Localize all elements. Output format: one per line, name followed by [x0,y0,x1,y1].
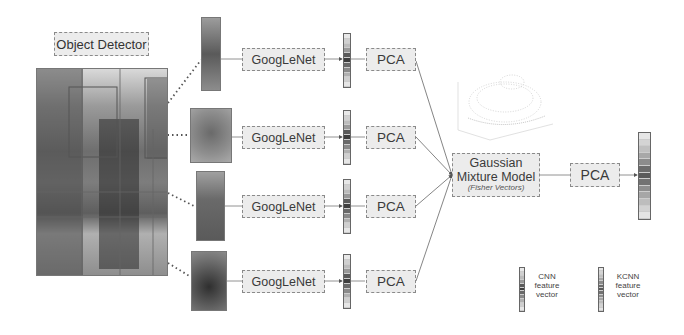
pca-box-1: PCA [366,48,416,71]
dotted-link-4 [168,263,191,277]
crop-image-2 [190,108,232,163]
vector-cell [344,303,350,308]
legend-kcnn-label: KCNN feature vector [610,272,646,300]
vector-cell [639,166,650,173]
legend-kcnn-line2: feature [610,281,646,290]
pca-label: PCA [377,199,405,214]
dotted-link-1 [168,60,201,103]
vector-cell [639,179,650,186]
vector-cell [639,140,650,147]
vector-cell [639,153,650,160]
pca-label: PCA [377,130,405,145]
googlenet-box-4: GoogLeNet [242,270,325,293]
vector-cell [344,228,350,233]
vector-cell [639,206,650,213]
vector-cell [639,159,650,166]
crop-image-1 [201,17,221,91]
googlenet-box-3: GoogLeNet [242,195,325,218]
legend-kcnn-line1: KCNN [610,272,646,281]
object-detector-label: Object Detector [54,32,149,56]
vector-cell [599,308,603,311]
vector-cell [639,186,650,193]
pca-box-3: PCA [366,195,416,218]
vector-cell [344,159,350,164]
crop-image-4 [191,251,227,311]
cnn-feature-vector-4 [343,254,351,309]
vector-cell [639,199,650,206]
legend-kcnn-line3: vector [610,290,646,299]
object-detector-text: Object Detector [56,37,146,52]
link-pca-gmm-1 [416,61,452,175]
pca-box-2: PCA [366,126,416,149]
detection-boxes [37,69,168,276]
gmm-title-line1: Gaussian [470,157,523,171]
googlenet-label: GoogLeNet [252,200,316,214]
googlenet-label: GoogLeNet [252,53,316,67]
vector-cell [520,307,524,311]
cnn-feature-vector-3 [343,179,351,234]
vector-cell [344,82,350,87]
googlenet-box-1: GoogLeNet [242,48,325,71]
cnn-feature-vector-2 [343,110,351,165]
googlenet-label: GoogLeNet [252,131,316,145]
gmm-title-line2: Mixture Model [457,171,536,185]
pca-label: PCA [377,52,405,67]
googlenet-label: GoogLeNet [252,275,316,289]
legend-cnn-line1: CNN [530,272,564,281]
vector-cell [639,212,650,219]
vector-cell [639,173,650,180]
legend-cnn-line3: vector [530,290,564,299]
final-pca-box: PCA [570,163,620,187]
scatter-plot-3d [458,75,553,140]
detector-image [36,68,168,276]
legend-cnn-vector-icon [519,267,525,312]
vector-cell [639,133,650,140]
vector-cell [639,192,650,199]
legend-kcnn-vector-icon [598,267,604,312]
legend-cnn-label: CNN feature vector [530,272,564,300]
final-pca-label: PCA [581,167,610,183]
cnn-feature-vector-1 [343,33,351,88]
kcnn-feature-vector [638,132,651,220]
googlenet-box-2: GoogLeNet [242,126,325,149]
pca-label: PCA [377,274,405,289]
gmm-subtitle: (Fisher Vectors) [468,184,525,193]
crop-image-3 [196,171,225,241]
legend-cnn-line2: feature [530,281,564,290]
pca-box-4: PCA [366,270,416,293]
gmm-box: Gaussian Mixture Model (Fisher Vectors) [452,153,540,197]
dotted-link-3 [168,193,196,207]
link-pca-gmm-2 [416,137,452,175]
vector-cell [639,146,650,153]
